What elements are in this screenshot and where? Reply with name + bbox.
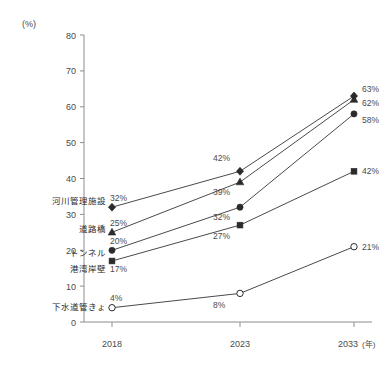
value-label: 42% <box>362 166 379 176</box>
value-label: 58% <box>362 115 379 125</box>
value-label: 32% <box>110 193 127 203</box>
value-label: 27% <box>213 231 230 241</box>
y-tick-label: 30 <box>66 210 76 220</box>
y-tick-label: 10 <box>66 282 76 292</box>
value-label: 21% <box>362 242 379 252</box>
y-tick-label: 60 <box>66 102 76 112</box>
value-label: 25% <box>110 218 127 228</box>
value-label: 8% <box>213 300 226 310</box>
series-label-port-quays: 港湾岸壁 <box>70 264 106 274</box>
value-label: 17% <box>110 264 127 274</box>
y-tick-label: 70 <box>66 66 76 76</box>
x-tick-label: 2033 <box>338 339 358 349</box>
data-point-marker <box>237 290 243 296</box>
value-label: 4% <box>110 293 123 303</box>
y-tick-label: 50 <box>66 138 76 148</box>
series-label-road-bridges: 道路橋 <box>79 224 106 234</box>
data-point-marker <box>351 111 357 117</box>
data-point-marker <box>109 247 115 253</box>
value-label: 62% <box>362 98 379 108</box>
data-point-marker <box>237 222 243 228</box>
data-point-marker <box>237 204 243 210</box>
value-label: 20% <box>110 236 127 246</box>
line-chart: (%) 80 70 60 50 40 30 20 10 0 <box>0 0 388 372</box>
y-tick-label: 80 <box>66 31 76 41</box>
value-label: 39% <box>213 187 230 197</box>
chart-background <box>0 0 388 372</box>
value-label: 42% <box>213 153 230 163</box>
data-point-marker <box>109 305 115 311</box>
value-label: 63% <box>362 84 379 94</box>
x-tick-label: 2018 <box>102 339 122 349</box>
x-tick-label: 2023 <box>230 339 250 349</box>
chart-container: (%) 80 70 60 50 40 30 20 10 0 <box>0 0 388 372</box>
y-tick-label: 40 <box>66 174 76 184</box>
y-axis-unit-label: (%) <box>22 19 36 29</box>
value-label: 32% <box>213 212 230 222</box>
data-point-marker <box>351 244 357 250</box>
x-axis-unit-label: (年) <box>362 339 376 349</box>
series-label-tunnels: トンネル <box>70 248 106 258</box>
y-tick-label: 0 <box>71 318 76 328</box>
series-label-river-facilities: 河川管理施設 <box>52 196 106 206</box>
series-label-sewer-pipes: 下水道管きょ <box>52 302 106 312</box>
data-point-marker <box>351 168 357 174</box>
